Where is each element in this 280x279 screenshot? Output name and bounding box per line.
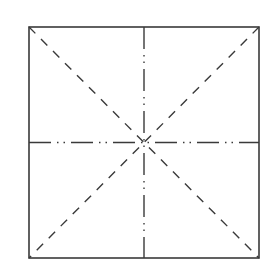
diagram-canvas xyxy=(0,0,280,279)
fold-diagram xyxy=(0,0,280,279)
